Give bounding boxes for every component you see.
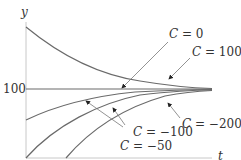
label-c100: C = 100 [192,45,241,59]
y-tick-100: 100 [3,82,26,96]
label-cm50: C = −50 [120,139,172,153]
arrow-c100 [169,58,190,79]
arrow-cm200 [168,103,180,118]
arrow-c0 [122,42,168,88]
x-axis-label: t [218,149,223,160]
label-c0: C = 0 [169,27,204,41]
solution-curves-chart: y t 100 C = 0 C = 100 C = −200 C = −100 … [0,0,241,160]
label-cm100: C = −100 [133,125,193,139]
y-axis-label: y [20,5,28,19]
